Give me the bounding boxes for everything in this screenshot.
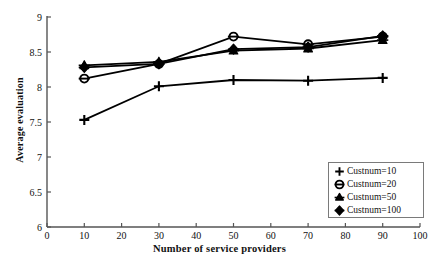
legend: Custnum=10 Custnum=20 Custnum=50 Custnum… xyxy=(328,162,424,218)
x-tick-label: 80 xyxy=(340,230,350,241)
x-tick-label: 50 xyxy=(229,230,239,241)
legend-item: Custnum=50 xyxy=(333,191,423,204)
y-axis-label: Average evaluation xyxy=(10,40,28,200)
x-tick-label: 0 xyxy=(45,230,50,241)
legend-item-label: Custnum=10 xyxy=(347,165,396,178)
legend-item-label: Custnum=100 xyxy=(347,204,401,217)
x-tick-label: 60 xyxy=(266,230,276,241)
legend-item: Custnum=100 xyxy=(333,204,423,217)
plus-icon xyxy=(79,115,89,125)
plot-area: 66.577.588.590102030405060708090100 xyxy=(0,0,439,265)
triangle-icon xyxy=(333,191,346,204)
x-tick-label: 70 xyxy=(303,230,313,241)
circle-bar-icon xyxy=(333,178,346,191)
plus-icon xyxy=(378,73,388,83)
y-tick-label: 9 xyxy=(37,12,42,23)
plus-icon xyxy=(154,81,164,91)
x-tick-label: 40 xyxy=(191,230,201,241)
y-tick-label: 8.5 xyxy=(30,47,43,58)
y-tick-label: 6 xyxy=(37,222,42,233)
y-tick-label: 6.5 xyxy=(30,187,43,198)
series-custnum-10 xyxy=(79,73,387,125)
y-tick-label: 7 xyxy=(37,152,42,163)
x-tick-label: 10 xyxy=(79,230,89,241)
plus-icon xyxy=(333,165,346,178)
y-tick-label: 7.5 xyxy=(30,117,43,128)
y-tick-label: 8 xyxy=(37,82,42,93)
legend-item-label: Custnum=50 xyxy=(347,191,396,204)
x-tick-label: 100 xyxy=(413,230,428,241)
x-tick-label: 20 xyxy=(117,230,127,241)
x-axis-label-text: Number of service providers xyxy=(0,243,439,254)
chart-figure: 66.577.588.590102030405060708090100 Aver… xyxy=(0,0,439,265)
diamond-icon xyxy=(333,204,346,217)
plus-icon xyxy=(303,76,313,86)
x-tick-label: 30 xyxy=(154,230,164,241)
legend-item: Custnum=20 xyxy=(333,178,423,191)
legend-item-label: Custnum=20 xyxy=(347,178,396,191)
plus-icon xyxy=(229,75,239,85)
y-axis-label-text: Average evaluation xyxy=(14,77,25,162)
legend-item: Custnum=10 xyxy=(333,165,423,178)
x-tick-label: 90 xyxy=(378,230,388,241)
